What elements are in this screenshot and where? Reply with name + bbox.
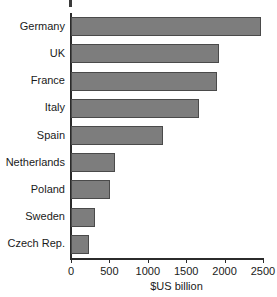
x-axis-title: $US billion [0, 280, 277, 292]
bar-row [71, 126, 263, 145]
x-axis-line [70, 258, 263, 260]
cropped-glyph-remnant [69, 0, 72, 7]
x-tick-label: 1000 [128, 265, 168, 277]
category-label: France [0, 75, 65, 86]
x-tick-label: 0 [51, 265, 91, 277]
category-label: Poland [0, 184, 65, 195]
x-tick-label: 2500 [243, 265, 277, 277]
bar-sweden [71, 208, 95, 227]
bar-row [71, 17, 263, 36]
category-label: Sweden [0, 211, 65, 222]
bar-spain [71, 126, 163, 145]
bar-row [71, 180, 263, 199]
category-label: Netherlands [0, 157, 65, 168]
bar-germany [71, 17, 261, 36]
x-tick [71, 258, 72, 263]
bar-row [71, 72, 263, 91]
category-label: Czech Rep. [0, 238, 65, 249]
x-tick [109, 258, 110, 263]
category-label: Germany [0, 21, 65, 32]
x-axis-title-text: $US billion [150, 280, 203, 292]
x-tick-label: 500 [89, 265, 129, 277]
bar-czech-rep [71, 235, 89, 254]
category-label: UK [0, 48, 65, 59]
bar-row [71, 235, 263, 254]
category-label: Spain [0, 130, 65, 141]
x-tick [225, 258, 226, 263]
x-tick-label: 1500 [166, 265, 206, 277]
bar-italy [71, 99, 199, 118]
bar-row [71, 208, 263, 227]
bar-chart: GermanyUKFranceItalySpainNetherlandsPola… [0, 0, 277, 297]
bar-netherlands [71, 153, 115, 172]
category-label: Italy [0, 102, 65, 113]
x-tick [186, 258, 187, 263]
x-tick [263, 258, 264, 263]
bar-row [71, 153, 263, 172]
bar-uk [71, 44, 219, 63]
x-tick [148, 258, 149, 263]
bar-row [71, 99, 263, 118]
bar-row [71, 44, 263, 63]
bar-poland [71, 180, 110, 199]
bar-france [71, 72, 217, 91]
x-tick-label: 2000 [205, 265, 245, 277]
